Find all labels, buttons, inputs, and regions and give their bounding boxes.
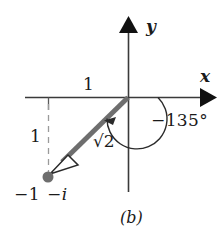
x-axis-label: x bbox=[200, 68, 210, 85]
x-extent-label: 1 bbox=[83, 76, 94, 93]
angle-label: −135° bbox=[151, 112, 208, 129]
x-axis-arrowhead bbox=[200, 88, 217, 107]
point-marker bbox=[43, 172, 54, 183]
complex-plane-figure: y x 1 1 √2 −135° −1−i (b) bbox=[0, 0, 224, 243]
point-label-imag-sign: − bbox=[47, 184, 62, 204]
y-axis-arrowhead bbox=[119, 16, 138, 33]
point-label-real: −1 bbox=[14, 184, 40, 204]
figure-caption: (b) bbox=[120, 210, 143, 226]
y-axis-label: y bbox=[146, 18, 156, 35]
y-extent-label: 1 bbox=[30, 128, 41, 145]
point-label-imag: i bbox=[62, 184, 68, 204]
vector-shaft bbox=[62, 98, 128, 163]
point-label: −1−i bbox=[14, 186, 68, 203]
magnitude-label: √2 bbox=[93, 133, 115, 150]
